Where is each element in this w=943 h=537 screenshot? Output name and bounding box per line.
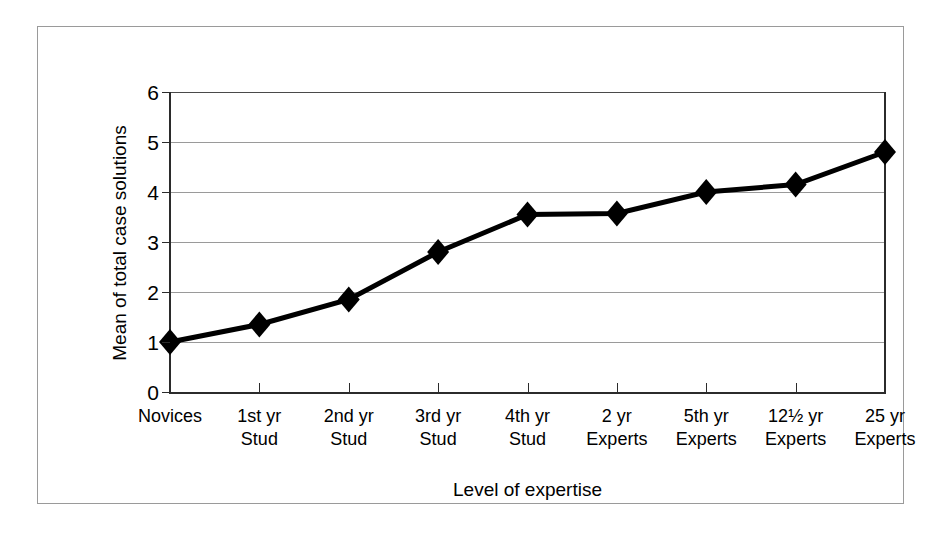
gridline (170, 92, 885, 93)
y-axis-tick-label: 3 (133, 232, 159, 253)
x-axis-tick-label-line1: 3rd yr (415, 406, 461, 426)
y-axis-tick-mark (162, 342, 170, 343)
x-axis-tick-label-line1: 2nd yr (324, 406, 374, 426)
y-axis-tick-label: 4 (133, 182, 159, 203)
gridline (170, 342, 885, 343)
gridline (170, 142, 885, 143)
x-axis-tick-label-line1: 4th yr (505, 406, 550, 426)
x-axis-tick-mark (438, 383, 439, 393)
gridline (170, 192, 885, 193)
y-axis-title: Mean of total case solutions (109, 113, 131, 373)
x-axis-tick-mark (259, 383, 260, 393)
y-axis-tick-mark (162, 242, 170, 243)
x-axis-tick-labels: Novices1st yrStud2nd yrStud3rd yrStud4th… (170, 405, 885, 465)
y-axis-tick-mark (162, 392, 170, 393)
x-axis-tick-label-line1: 1st yr (237, 406, 281, 426)
y-axis-tick-mark (162, 92, 170, 93)
x-axis-title: Level of expertise (170, 479, 885, 501)
x-axis-tick-mark (706, 383, 707, 393)
chart-figure: Mean of total case solutions 0123456 Nov… (0, 0, 943, 537)
x-axis-tick-label-line1: Novices (138, 406, 202, 426)
x-axis-tick-label-line2: Experts (825, 428, 943, 451)
x-axis-tick-mark (528, 383, 529, 393)
x-axis-tick-mark (349, 383, 350, 393)
y-axis-tick-label: 5 (133, 132, 159, 153)
y-axis-tick-label: 2 (133, 282, 159, 303)
y-axis-tick-label: 6 (133, 82, 159, 103)
x-axis-tick-label-line1: 2 yr (602, 406, 632, 426)
chart-frame: Mean of total case solutions 0123456 Nov… (37, 26, 904, 504)
y-axis-tick-mark (162, 142, 170, 143)
x-axis-tick-label: 25 yrExperts (825, 405, 943, 450)
gridline (170, 242, 885, 243)
x-axis-tick-mark (170, 383, 171, 393)
plot-right-edge (884, 92, 886, 394)
y-axis-line (169, 92, 171, 394)
x-axis-tick-mark (796, 383, 797, 393)
y-axis-tick-label: 0 (133, 382, 159, 403)
y-axis-tick-mark (162, 192, 170, 193)
plot-area (170, 92, 885, 392)
x-axis-tick-mark (885, 383, 886, 393)
gridline (170, 292, 885, 293)
x-axis-tick-label-line1: 5th yr (684, 406, 729, 426)
x-axis-tick-mark (617, 383, 618, 393)
x-axis-tick-label-line1: 25 yr (865, 406, 905, 426)
y-axis-tick-labels: 0123456 (133, 92, 159, 392)
y-axis-tick-label: 1 (133, 332, 159, 353)
x-axis-tick-label-line1: 12½ yr (768, 406, 823, 426)
y-axis-tick-mark (162, 292, 170, 293)
